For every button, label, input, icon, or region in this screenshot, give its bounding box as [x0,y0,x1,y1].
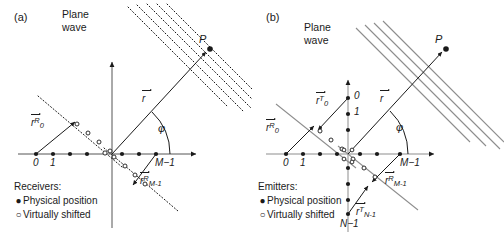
vector-label-rM1R-a: rRM-1 [140,175,162,188]
vector-label-r0R-b: rR0 [266,122,279,135]
legend-filled-dot-icon-a: ● [14,196,23,207]
axis-label-last-b: M−1 [400,158,420,169]
panel-b: (b) Plane wave P φ r rT0 rR0 rRM-1 rTN-1… [252,0,504,238]
vector-base-r-b: r [380,93,383,104]
vector-label-r-a: r [142,94,145,105]
array-open-dot-origin-a [103,151,107,155]
angle-label-phi-b: φ [396,122,403,134]
legend-open-dot-icon-b: ○ [258,210,267,221]
legend-item-shifted-a: ○Virtually shifted [14,210,91,221]
legend-item-physical-b: ●Physical position [258,196,341,207]
legend-item-shifted-b: ○Virtually shifted [258,210,335,221]
vector-sub-r0R-a: 0 [40,121,44,130]
axis-label-origin-b: 0 [283,158,289,169]
plane-wave-lines-a [128,4,252,111]
legend-filled-dot-icon-b: ● [258,196,267,207]
legend-label-physical-b: Physical position [267,195,341,206]
plane-wave-label-a-line2: wave [62,22,87,33]
vector-sub-r0T-b: 0 [324,99,328,108]
shifted-dots-lower-b [351,157,377,179]
legend-open-dot-icon-a: ○ [14,210,23,221]
plane-wave-lines-b [356,21,504,149]
panel-b-tag: (b) [266,12,279,24]
vector-label-rM1R-b: rRM-1 [385,175,407,188]
vector-base-r-a: r [142,93,145,104]
vector-r0R-b [286,126,314,154]
legend-title-b: Emitters: [258,182,297,193]
vector-sub-rM1R-a: M-1 [149,179,162,188]
y-axis-label-last-b: N−1 [340,219,359,230]
plane-wave-label-b-line1: Plane [304,22,331,33]
legend-title-a: Receivers: [14,182,61,193]
panel-a: (a) Plane wave P φ r rR0 rRM-1 0 1 M−1 R… [0,0,252,238]
axis-label-origin-a: 0 [33,158,39,169]
point-label-P-a: P [199,34,206,46]
vector-r-a [112,52,206,154]
vector-label-r0R-a: rR0 [31,117,44,130]
axis-label-last-a: M−1 [155,158,175,169]
angle-label-phi-a: φ [158,123,165,135]
vector-sub-rM1R-b: M-1 [394,179,407,188]
shifted-dots-upper-a [75,122,112,153]
vector-sub-r0R-b: 0 [275,126,279,135]
y-axis-label-first-b: 1 [354,107,360,118]
point-P-b [443,46,449,52]
axis-label-first-b: 1 [300,158,306,169]
y-axis-label-origin-b: 0 [354,91,360,102]
legend-label-shifted-a: Virtually shifted [23,209,91,220]
point-P-a [207,46,213,52]
legend-label-physical-a: Physical position [23,195,97,206]
figure-root: (a) Plane wave P φ r rR0 rRM-1 0 1 M−1 R… [0,0,504,238]
vector-label-rN1T-b: rTN-1 [356,206,376,219]
legend-item-physical-a: ●Physical position [14,196,97,207]
panel-a-tag: (a) [14,12,27,24]
legend-label-shifted-b: Virtually shifted [267,209,335,220]
point-label-P-b: P [435,34,442,46]
vector-sub-rN1T-b: N-1 [364,210,376,219]
plane-wave-label-b-line2: wave [304,35,329,46]
plane-wave-label-a-line1: Plane [62,9,89,20]
vector-label-r-b: r [380,94,383,105]
vector-label-r0T-b: rT0 [316,95,328,108]
axis-label-first-a: 1 [50,158,56,169]
